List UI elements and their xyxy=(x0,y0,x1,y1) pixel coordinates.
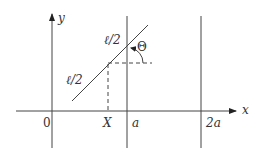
X-label: X xyxy=(102,116,112,130)
2a-label: 2a xyxy=(205,116,221,130)
y-axis-label: y xyxy=(57,11,65,25)
lower-half-label: ℓ/2 xyxy=(66,73,83,87)
upper-half-label: ℓ/2 xyxy=(104,33,121,47)
origin-label: 0 xyxy=(43,116,51,130)
needle-diagram: y x 0 X a 2a ℓ/2 ℓ/2 Θ xyxy=(0,0,263,159)
x-axis-label: x xyxy=(242,103,249,117)
a-label: a xyxy=(132,116,139,130)
angle-label: Θ xyxy=(137,40,147,54)
